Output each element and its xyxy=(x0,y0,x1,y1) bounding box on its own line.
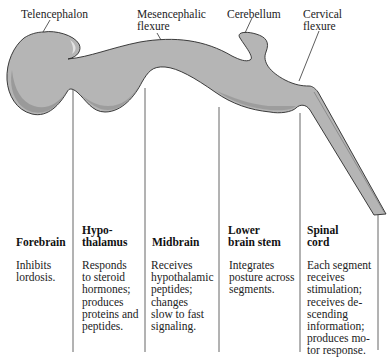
label-cervical-flexure: Cervical flexure xyxy=(303,8,342,32)
spinal-cord-edge xyxy=(314,92,384,212)
label-mesencephalic-flexure: Mesencephalic flexure xyxy=(137,8,206,32)
column-title-midbrain: Midbrain xyxy=(152,236,199,248)
neural-tube-shape xyxy=(7,32,386,215)
leader-cervical xyxy=(299,31,319,81)
column-title-spinal-cord: Spinal cord xyxy=(307,224,338,248)
leader-telencephalon xyxy=(43,20,50,32)
column-desc-lower-brain-stem: Integrates posture across segments. xyxy=(229,259,294,296)
leader-mesencephalic xyxy=(157,33,161,40)
column-desc-midbrain: Receives hypothalamic peptides; changes … xyxy=(151,259,214,332)
label-telencephalon: Telencephalon xyxy=(21,8,88,20)
column-title-hypothalamus: Hypo- thalamus xyxy=(82,224,127,248)
label-cerebellum: Cerebellum xyxy=(227,8,281,20)
neural-tube xyxy=(7,32,386,215)
column-desc-forebrain: Inhibits lordosis. xyxy=(16,259,55,283)
column-title-lower-brain-stem: Lower brain stem xyxy=(228,224,281,248)
column-desc-hypothalamus: Responds to steroid hormones; produces p… xyxy=(82,259,139,332)
column-desc-spinal-cord: Each segment receives stimulation; recei… xyxy=(307,259,371,357)
column-title-forebrain: Forebrain xyxy=(16,236,66,248)
leader-cerebellum xyxy=(245,18,252,33)
